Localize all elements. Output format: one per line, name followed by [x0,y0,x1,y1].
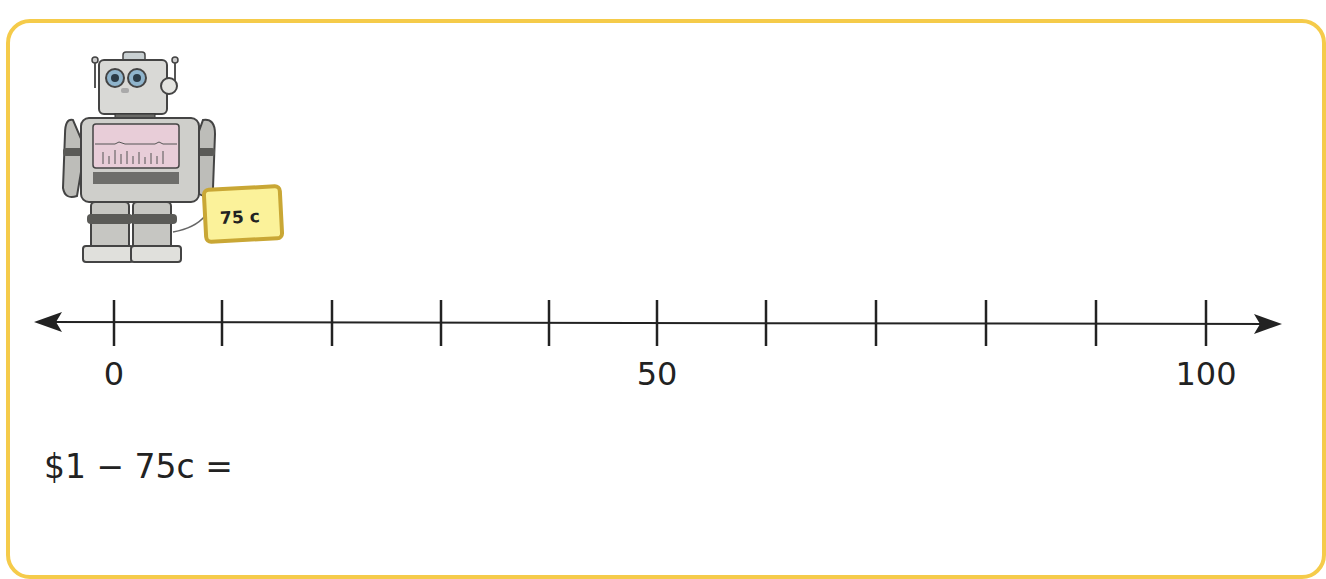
subtraction-question: $1 − 75c = [44,447,233,486]
tick-label-100: 100 [1175,355,1236,393]
tick-label-50: 50 [637,355,678,393]
tick-label-0: 0 [104,355,124,393]
